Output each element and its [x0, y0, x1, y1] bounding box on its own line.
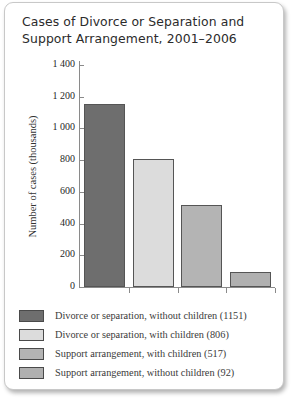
legend-label: Divorce or separation, with children (80…: [55, 329, 229, 340]
chart-card: Cases of Divorce or Separation and Suppo…: [4, 2, 284, 390]
bar: [181, 205, 222, 287]
bar: [84, 104, 125, 287]
legend-label: Support arrangement, without children (9…: [55, 367, 234, 378]
legend-swatch: [19, 329, 44, 341]
y-tick-label: 0: [19, 280, 75, 291]
y-tick-label: 800: [19, 153, 75, 164]
y-tick: [79, 97, 84, 98]
x-tick: [178, 288, 179, 293]
chart-legend: Divorce or separation, without children …: [19, 306, 277, 382]
y-tick-label: 1 400: [19, 58, 75, 69]
legend-label: Divorce or separation, without children …: [55, 310, 247, 321]
y-axis-title: Number of cases (thousands): [27, 87, 38, 267]
legend-swatch: [19, 348, 44, 360]
y-tick-label: 1 200: [19, 90, 75, 101]
y-tick-label: 400: [19, 217, 75, 228]
y-axis-line: [79, 61, 80, 288]
y-tick: [79, 287, 84, 288]
legend-item[interactable]: Divorce or separation, with children (80…: [19, 325, 277, 344]
legend-swatch: [19, 367, 44, 379]
y-tick-label: 600: [19, 185, 75, 196]
legend-item[interactable]: Support arrangement, without children (9…: [19, 363, 277, 382]
y-tick-label: 200: [19, 248, 75, 259]
bar: [230, 272, 271, 287]
legend-swatch: [19, 310, 44, 322]
x-tick: [129, 288, 130, 293]
legend-item[interactable]: Support arrangement, with children (517): [19, 344, 277, 363]
y-tick: [79, 65, 84, 66]
x-tick: [275, 288, 276, 293]
bar: [133, 159, 174, 287]
legend-label: Support arrangement, with children (517): [55, 348, 226, 359]
y-tick-label: 1 000: [19, 121, 75, 132]
x-tick: [226, 288, 227, 293]
plot-area: Number of cases (thousands) 020040060080…: [5, 3, 284, 303]
legend-item[interactable]: Divorce or separation, without children …: [19, 306, 277, 325]
